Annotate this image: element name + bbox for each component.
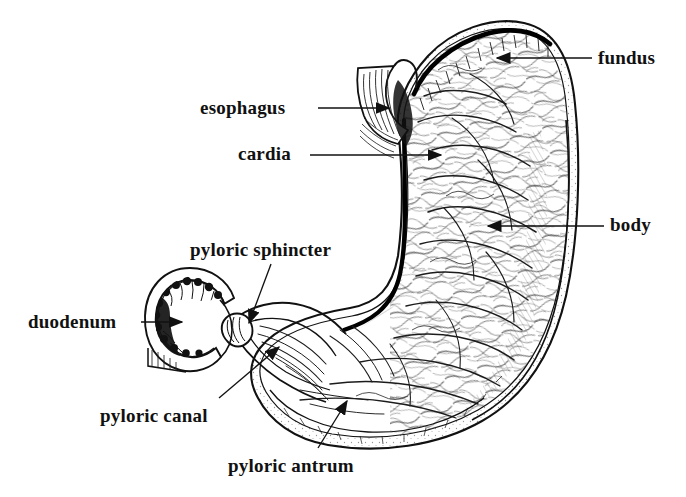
label-pyloric-sphincter: pyloric sphincter	[190, 240, 331, 259]
esophagus-organ	[357, 60, 417, 158]
stomach-organ	[251, 20, 590, 450]
label-esophagus: esophagus	[200, 98, 285, 117]
label-body: body	[610, 215, 651, 234]
label-fundus: fundus	[598, 48, 655, 67]
duodenum-organ	[145, 268, 234, 372]
label-pyloric-canal: pyloric canal	[100, 406, 208, 425]
stomach-anatomy-diagram: fundus esophagus cardia body pyloric sph…	[0, 0, 686, 497]
pyloric-sphincter-ring	[222, 314, 253, 347]
label-pyloric-antrum: pyloric antrum	[228, 456, 354, 475]
leader-pyloric-sphincter	[249, 264, 271, 323]
label-cardia: cardia	[238, 144, 291, 163]
label-duodenum: duodenum	[28, 312, 116, 331]
